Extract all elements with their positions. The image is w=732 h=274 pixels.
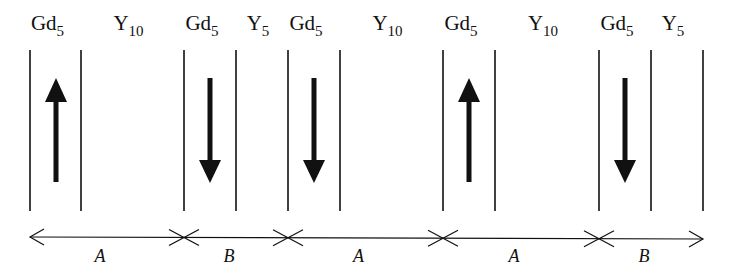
superlattice-diagram: Gd5Y10Gd5Y5Gd5Y10Gd5Y10Gd5Y5ABAAB xyxy=(0,0,732,274)
layer-label: Gd5 xyxy=(600,11,633,39)
arrow-up-icon xyxy=(458,78,480,102)
layer-label: Y10 xyxy=(528,11,558,39)
layer-label: Gd5 xyxy=(289,11,322,39)
segment-label: B xyxy=(639,246,650,266)
layer-label: Gd5 xyxy=(444,11,477,39)
diagram-canvas: Gd5Y10Gd5Y5Gd5Y10Gd5Y10Gd5Y5ABAAB xyxy=(0,0,732,274)
layer-label: Y10 xyxy=(113,11,143,39)
segment-label: A xyxy=(508,246,521,266)
moment-arrow-shaft xyxy=(312,78,317,162)
arrow-down-icon xyxy=(303,160,325,183)
moment-arrow-shaft xyxy=(467,100,472,182)
moment-arrow-shaft xyxy=(623,78,628,162)
segment-label: B xyxy=(224,246,235,266)
layer-label: Gd5 xyxy=(185,11,218,39)
segment-label: A xyxy=(352,246,365,266)
layer-label: Y5 xyxy=(662,11,685,39)
moment-arrow-shaft xyxy=(208,78,213,162)
arrow-down-icon xyxy=(199,160,221,183)
arrow-down-icon xyxy=(614,160,636,183)
layer-label: Y5 xyxy=(247,11,270,39)
layer-label: Y10 xyxy=(372,11,402,39)
layer-label: Gd5 xyxy=(31,11,64,39)
segment-label: A xyxy=(94,246,107,266)
moment-arrow-shaft xyxy=(54,100,59,182)
arrow-up-icon xyxy=(45,78,67,102)
